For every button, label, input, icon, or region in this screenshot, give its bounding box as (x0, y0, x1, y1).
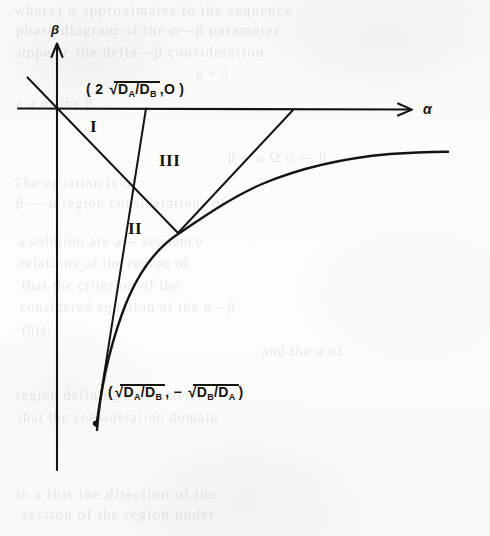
phase-diagram-figure (0, 0, 490, 536)
upper-numerator-subscript: A (128, 89, 135, 99)
upper-radical-group: √DA/DB (107, 80, 159, 97)
lower-second-radical-group: √DB/DA (186, 383, 238, 400)
lower-second-numerator-subscript: B (207, 392, 214, 402)
upper-radical-vinculum (114, 81, 159, 83)
upper-radical-sign: √ (109, 80, 118, 97)
upper-coordinate-label: ( 2 √DA/DB,O ) (86, 80, 184, 97)
lower-first-radical-vinculum (120, 384, 165, 386)
lower-second-radical-sign: √ (188, 383, 197, 400)
region-label-i: I (90, 117, 97, 137)
scanned-page: where) α approximates to the sequencepha… (0, 0, 490, 536)
alpha-axis-label: α (423, 101, 432, 117)
upper-numerator: D (118, 81, 128, 97)
lower-second-numerator: D (197, 384, 207, 400)
lower-second-denominator-subscript: A (229, 392, 236, 402)
lower-second-radical-vinculum (193, 384, 238, 386)
lower-first-numerator: D (124, 384, 134, 400)
lower-second-denominator: D (218, 384, 228, 400)
beta-axis-label: β (51, 22, 59, 37)
upper-close-paren: ) (179, 81, 184, 97)
lower-first-radical-sign: √ (115, 383, 124, 400)
upper-denominator-subscript: B (150, 89, 157, 99)
lower-first-radical-group: √DA/DB (113, 383, 165, 400)
upper-second-component: O (164, 81, 175, 97)
lower-first-numerator-subscript: A (134, 392, 141, 402)
vertex-upper-line (178, 110, 293, 233)
lower-first-denominator: D (145, 384, 155, 400)
upper-denominator: D (139, 81, 149, 97)
origin-diagonal-line (28, 78, 179, 234)
region-label-iii: III (159, 151, 180, 171)
lower-minus-sign: − (174, 384, 182, 400)
lower-point-marker (93, 421, 98, 426)
alpha-axis-line (18, 109, 410, 110)
region-label-ii: II (128, 219, 142, 239)
lower-coordinate-label: (√DA/DB, − √DB/DA) (108, 383, 243, 400)
lower-close-paren: ) (239, 384, 244, 400)
lower-first-denominator-subscript: B (155, 392, 162, 402)
